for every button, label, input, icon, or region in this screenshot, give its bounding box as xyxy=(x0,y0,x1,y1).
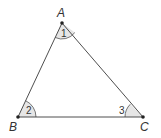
vertex-a-dot xyxy=(60,21,64,25)
vertex-b-dot xyxy=(16,115,20,119)
angle-2-label: 2 xyxy=(26,105,32,116)
angle-1-label: 1 xyxy=(61,28,67,39)
side-ac xyxy=(62,23,143,117)
vertex-b-label: B xyxy=(9,120,17,134)
triangle-diagram: A B C 1 2 3 xyxy=(0,0,161,138)
angle-3-label: 3 xyxy=(119,105,125,116)
vertex-a-label: A xyxy=(56,6,65,20)
side-ab xyxy=(18,23,62,117)
vertex-c-label: C xyxy=(140,120,149,134)
vertex-c-dot xyxy=(141,115,145,119)
triangle-svg: A B C 1 2 3 xyxy=(0,0,161,138)
